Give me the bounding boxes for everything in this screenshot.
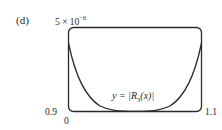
plot-area [0,0,222,130]
eqn-prefix: y = |R [112,90,137,101]
eqn-suffix: (x)| [140,90,154,101]
curve-equation-label: y = |R3(x)| [112,91,154,104]
